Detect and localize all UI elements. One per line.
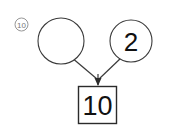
number-bond-worksheet-item: 10 2 10: [0, 0, 169, 133]
connector-right: [99, 57, 122, 79]
problem-number-marker: 10: [15, 18, 28, 31]
left-part-circle-outline[interactable]: [38, 18, 84, 64]
right-part-circle[interactable]: 2: [110, 20, 152, 62]
left-part-circle[interactable]: [38, 18, 84, 64]
right-part-value: 2: [124, 27, 138, 57]
total-box[interactable]: 10: [79, 87, 117, 124]
arrow-down-icon: [95, 78, 102, 86]
number-bond-diagram: 10 2 10: [0, 0, 169, 133]
total-box-value: 10: [82, 91, 112, 121]
problem-number-marker-label: 10: [17, 21, 26, 30]
connector-left: [71, 57, 97, 79]
